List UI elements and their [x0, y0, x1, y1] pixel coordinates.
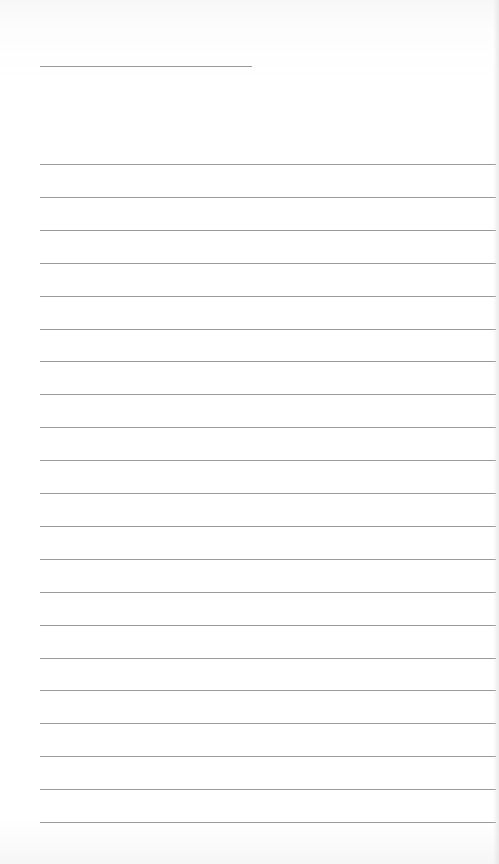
ruled-line [40, 625, 496, 626]
ruled-line [40, 526, 496, 527]
ruled-line [40, 164, 496, 165]
ruled-line [40, 329, 496, 330]
ruled-line [40, 394, 496, 395]
ruled-line [40, 493, 496, 494]
ruled-line [40, 559, 496, 560]
ruled-line [40, 361, 496, 362]
lined-paper-page [0, 0, 499, 864]
ruled-line [40, 197, 496, 198]
ruled-line [40, 658, 496, 659]
ruled-line [40, 296, 496, 297]
ruled-line [40, 822, 496, 823]
ruled-line [40, 756, 496, 757]
ruled-line [40, 592, 496, 593]
ruled-line [40, 690, 496, 691]
ruled-line [40, 263, 496, 264]
ruled-line [40, 723, 496, 724]
ruled-line [40, 230, 496, 231]
ruled-lines-area [40, 0, 496, 864]
ruled-line [40, 427, 496, 428]
ruled-line [40, 460, 496, 461]
ruled-line [40, 789, 496, 790]
